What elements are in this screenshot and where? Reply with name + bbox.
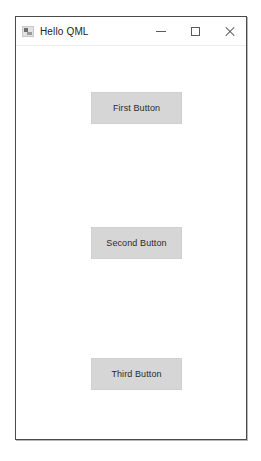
client-area: First Button Second Button Third Button: [16, 46, 246, 439]
window-title: Hello QML: [40, 26, 144, 37]
first-button[interactable]: First Button: [91, 92, 182, 124]
minimize-button[interactable]: [144, 17, 178, 46]
maximize-button[interactable]: [178, 17, 212, 46]
title-bar[interactable]: Hello QML: [16, 17, 246, 46]
close-icon: [224, 26, 235, 37]
application-window: Hello QML First Button Second Button Thi…: [15, 16, 247, 440]
close-button[interactable]: [212, 17, 246, 46]
window-controls: [144, 17, 246, 45]
maximize-icon: [191, 27, 200, 36]
third-button[interactable]: Third Button: [91, 358, 182, 390]
app-window-icon: [22, 26, 34, 37]
second-button[interactable]: Second Button: [91, 227, 182, 259]
minimize-icon: [156, 31, 166, 32]
